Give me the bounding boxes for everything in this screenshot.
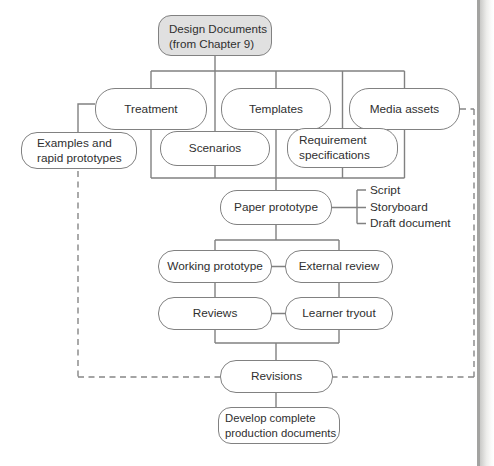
- node-templates: Templates: [221, 88, 331, 130]
- node-examples-rapid-prototypes: Examples and rapid prototypes: [21, 132, 137, 169]
- page-edge-shade: [480, 0, 494, 466]
- paper-prototype-bracket: [332, 190, 366, 224]
- node-requirement-specifications: Requirement specifications: [287, 128, 398, 168]
- node-external-review: External review: [285, 250, 393, 283]
- node-reviews: Reviews: [158, 297, 272, 330]
- connector-lines: [0, 0, 494, 466]
- node-treatment: Treatment: [95, 88, 207, 130]
- node-paper-prototype: Paper prototype: [220, 190, 332, 225]
- label-draft-document: Draft document: [370, 216, 451, 230]
- node-design-documents: Design Documents (from Chapter 9): [158, 15, 272, 56]
- label-storyboard: Storyboard: [370, 200, 428, 214]
- flowchart-page: Design Documents (from Chapter 9) Treatm…: [0, 0, 494, 466]
- label-script: Script: [370, 183, 400, 197]
- node-learner-tryout: Learner tryout: [285, 297, 393, 330]
- node-scenarios: Scenarios: [160, 131, 270, 166]
- node-media-assets: Media assets: [349, 88, 460, 130]
- node-revisions: Revisions: [220, 360, 333, 393]
- node-develop-production-documents: Develop complete production documents: [218, 407, 340, 444]
- node-working-prototype: Working prototype: [158, 250, 272, 283]
